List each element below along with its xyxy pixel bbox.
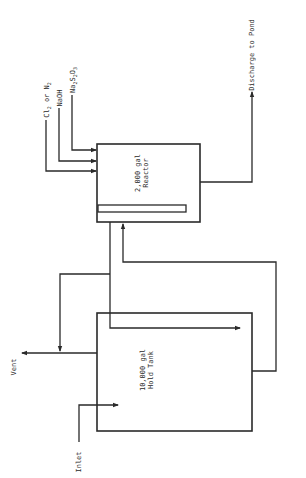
process-flow-diagram: Vent Inlet Discharge to Pond Cl2 or N2 N… [0, 0, 306, 478]
discharge-to-pond-label: Discharge to Pond [248, 19, 256, 91]
reactor-capacity-label: 2,000 gal [134, 154, 142, 192]
feed-line-naoh [59, 108, 96, 161]
reactor-dip-tube [98, 205, 186, 212]
vent-label: Vent [10, 359, 18, 376]
inlet-line [79, 405, 118, 442]
svg-text:Na2S2O3: Na2S2O3 [69, 67, 78, 93]
reactor-name-label: Reactor [142, 158, 150, 188]
reactor-to-hold-tank-line [110, 222, 240, 328]
inlet-label: Inlet [75, 451, 83, 472]
naoh-label: NaOH [56, 90, 64, 107]
feed-line-cl2 [46, 120, 96, 171]
discharge-line [200, 92, 252, 182]
svg-text:Cl2 or N2: Cl2 or N2 [43, 82, 52, 118]
na2s2o3-label: Na2S2O3 [69, 67, 78, 93]
hold-tank-name-label: Hold Tank [147, 350, 155, 389]
hold-tank-capacity-label: 10,000 gal [139, 349, 147, 391]
cl2-or-n2-label: Cl2 or N2 [43, 82, 52, 118]
hold-tank-vessel [97, 313, 252, 431]
feed-line-na2s2o3 [72, 95, 96, 150]
